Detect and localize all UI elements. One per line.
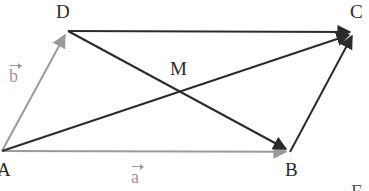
vector-glyph-b: b [9, 67, 18, 85]
diagram-canvas [0, 0, 369, 191]
vector-arrow-accent-b [9, 62, 18, 69]
segment-dc [68, 31, 350, 32]
geometry-figure: A B C D M a b E [0, 0, 369, 191]
point-label-c: C [350, 2, 363, 21]
segment-db-diagonal [68, 31, 286, 149]
vector-label-b: b [9, 62, 18, 85]
point-label-d: D [56, 2, 70, 21]
segment-ab [2, 151, 286, 152]
point-label-a: A [0, 160, 11, 179]
point-label-b: B [285, 160, 298, 179]
point-label-m: M [170, 59, 187, 78]
corner-partial-label: E [351, 182, 363, 191]
segment-bc [290, 36, 352, 152]
segment-ac-diagonal [2, 35, 349, 151]
vector-label-a: a [131, 163, 139, 186]
vector-glyph-a: a [131, 168, 139, 186]
vector-arrow-accent-a [131, 163, 139, 170]
